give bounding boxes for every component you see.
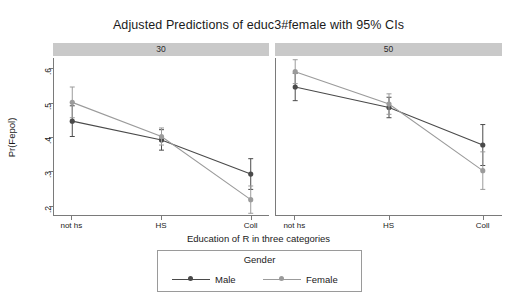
x-axis-label: Education of R in three categories [0, 233, 517, 244]
plot-svg-30 [54, 58, 269, 215]
legend-title: Gender [158, 254, 361, 265]
data-point-female [248, 197, 253, 202]
x-tick-label: Coll [476, 221, 490, 230]
x-tick-label: Coll [244, 221, 258, 230]
series-line-female [72, 102, 250, 199]
panel-header-30: 30 [53, 43, 269, 56]
data-point-male [293, 84, 298, 89]
data-point-female [70, 100, 75, 105]
x-tick-mark [161, 216, 162, 220]
x-tick-label: not hs [283, 221, 305, 230]
x-tick-mark [251, 216, 252, 220]
y-tick-label: .6 [43, 68, 53, 75]
data-point-male [480, 142, 485, 147]
data-point-female [293, 69, 298, 74]
x-tick-label: HS [155, 221, 166, 230]
data-point-male [248, 171, 253, 176]
legend-marker-female-icon [263, 274, 301, 284]
legend: Gender Male Female [157, 250, 362, 292]
data-point-female [159, 134, 164, 139]
y-tick-label: .4 [43, 137, 53, 144]
x-tick-label: not hs [60, 221, 82, 230]
chart-title: Adjusted Predictions of educ3#female wit… [0, 18, 517, 32]
x-tick-label: HS [383, 221, 394, 230]
plot-svg-50 [276, 58, 502, 215]
y-axis-label: Pr(Fepol) [5, 58, 19, 216]
plot-panel-50 [275, 58, 502, 216]
legend-entry-female: Female [263, 271, 338, 287]
x-tick-mark [483, 216, 484, 220]
x-tick-mark [294, 216, 295, 220]
y-axis-label-text: Pr(Fepol) [7, 117, 18, 157]
y-axis: .2.3.4.5.6 [30, 58, 53, 216]
data-point-male [70, 119, 75, 124]
x-tick-mark [389, 216, 390, 220]
chart-figure: Adjusted Predictions of educ3#female wit… [0, 0, 517, 308]
plot-panel-30 [53, 58, 269, 216]
panel-header-50: 50 [275, 43, 502, 56]
data-point-female [480, 168, 485, 173]
x-tick-mark [71, 216, 72, 220]
legend-marker-male-icon [172, 274, 210, 284]
y-tick-label: .5 [43, 103, 53, 110]
legend-label-male: Male [215, 274, 236, 285]
legend-label-female: Female [306, 274, 338, 285]
y-tick-label: .3 [43, 171, 53, 178]
series-line-female [295, 72, 483, 171]
y-tick-label: .2 [43, 206, 53, 213]
legend-entry-male: Male [172, 271, 236, 287]
data-point-female [386, 101, 391, 106]
